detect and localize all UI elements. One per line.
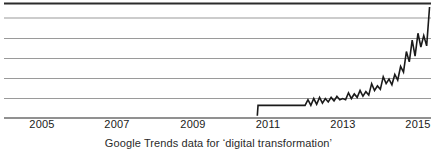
x-tick-label-2013: 2013: [330, 118, 355, 130]
x-tick-label-2007: 2007: [104, 118, 129, 130]
x-axis-tick-labels: 2005 2007 2009 2011 2013 2015: [0, 118, 437, 134]
x-tick-label-2015: 2015: [405, 118, 430, 130]
x-tick-label-2011: 2011: [256, 118, 280, 130]
trend-line-digital-transformation: [257, 7, 429, 116]
x-tick-label-2005: 2005: [29, 118, 54, 130]
x-tick-label-2009: 2009: [180, 118, 205, 130]
google-trends-chart-figure: 2005 2007 2009 2011 2013 2015 Google Tre…: [0, 0, 437, 158]
chart-svg: [0, 0, 437, 122]
chart-caption: Google Trends data for ‘digital transfor…: [0, 137, 437, 149]
chart-plot-area: [0, 0, 437, 122]
gridlines-group: [4, 4, 431, 119]
